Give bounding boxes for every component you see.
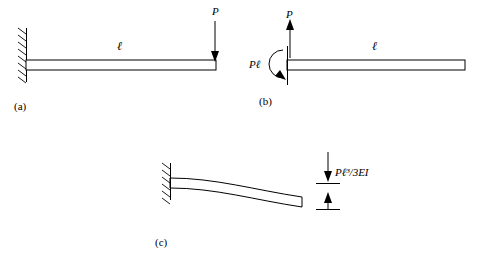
panel-c-caption: (c) <box>155 236 167 248</box>
panel-c-drawing <box>0 0 481 258</box>
panel-c-deflected-beam <box>170 178 302 207</box>
panel-c-wall-hatching <box>162 163 170 204</box>
panel-c-deflection-dimension <box>316 152 340 209</box>
panel-c-deflection-label: Pℓ³/3EI <box>335 166 369 178</box>
panel-c-deflection-text: Pℓ³/3EI <box>335 166 369 178</box>
figure-container: P ℓ (a) P Pℓ ℓ (b) <box>0 0 481 258</box>
